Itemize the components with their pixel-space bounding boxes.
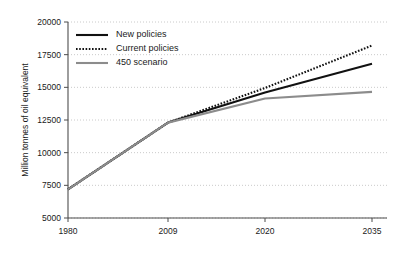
y-tick-label: 20000 xyxy=(37,17,61,27)
legend-label: Current policies xyxy=(116,43,179,53)
x-tick-label: 2009 xyxy=(159,226,178,236)
y-tick-label: 12500 xyxy=(37,115,61,125)
y-tick-label: 17500 xyxy=(37,50,61,60)
y-axis-title: Million tonnes of oil equivalent xyxy=(20,63,30,177)
legend-label: 450 scenario xyxy=(116,57,168,67)
y-tick-label: 15000 xyxy=(37,82,61,92)
series-line xyxy=(68,46,372,190)
x-tick-label: 2035 xyxy=(363,226,382,236)
legend-label: New policies xyxy=(116,29,167,39)
series-group xyxy=(68,46,372,190)
series-line xyxy=(68,64,372,189)
y-axis-ticks: 500075001000012500150001750020000 xyxy=(37,17,68,223)
y-tick-label: 5000 xyxy=(42,213,61,223)
chart-container: 500075001000012500150001750020000 198020… xyxy=(0,0,399,260)
x-axis-ticks: 1980200920202035 xyxy=(59,218,382,236)
chart-legend: New policiesCurrent policies450 scenario xyxy=(76,29,179,67)
x-tick-label: 2020 xyxy=(256,226,275,236)
y-tick-label: 7500 xyxy=(42,180,61,190)
x-tick-label: 1980 xyxy=(59,226,78,236)
y-tick-label: 10000 xyxy=(37,148,61,158)
line-chart: 500075001000012500150001750020000 198020… xyxy=(0,0,399,260)
